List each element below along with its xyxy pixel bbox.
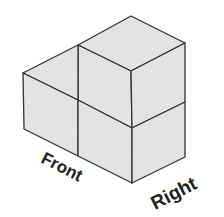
cube-diagram: Front Right	[0, 0, 224, 217]
cube-stack-figure: Front Right	[0, 0, 224, 217]
right-label: Right	[147, 173, 200, 214]
